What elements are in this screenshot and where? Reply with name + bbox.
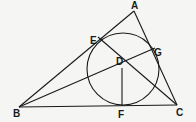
label-c: C [176, 107, 183, 118]
incircle [87, 33, 159, 105]
diagram-svg: A B C D E F G [0, 0, 196, 122]
label-b: B [13, 108, 20, 119]
label-d: D [116, 56, 123, 67]
segment-ec [98, 37, 177, 105]
label-f: F [118, 109, 124, 120]
side-bc [19, 105, 177, 107]
label-g: G [154, 47, 162, 58]
geometry-diagram: A B C D E F G [0, 0, 196, 122]
label-e: E [90, 35, 97, 46]
label-a: A [131, 0, 138, 11]
segment-bg [19, 48, 155, 107]
side-ca [134, 11, 177, 105]
